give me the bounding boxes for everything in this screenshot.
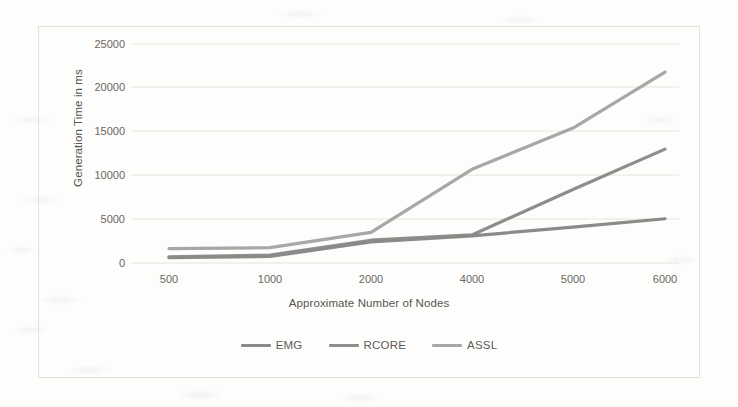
legend-swatch-icon <box>432 344 462 347</box>
x-tick-label: 500 <box>160 273 178 285</box>
chart-legend: EMG RCORE ASSL <box>39 339 699 351</box>
gridlines <box>131 44 679 263</box>
x-axis-title: Approximate Number of Nodes <box>39 297 699 309</box>
plot-area <box>39 27 701 379</box>
x-tick-label: 1000 <box>258 273 282 285</box>
x-tick-label: 5000 <box>561 273 585 285</box>
legend-label: EMG <box>276 339 303 351</box>
legend-swatch-icon <box>329 344 359 347</box>
legend-label: ASSL <box>467 339 497 351</box>
legend-item-emg[interactable]: EMG <box>241 339 303 351</box>
x-tick-label: 4000 <box>460 273 484 285</box>
legend-label: RCORE <box>364 339 407 351</box>
series-lines <box>169 72 665 258</box>
legend-item-rcore[interactable]: RCORE <box>329 339 407 351</box>
series-line-assl <box>169 72 665 249</box>
x-tick-label: 2000 <box>359 273 383 285</box>
chart-screenshot: Generation Time in ms 0 5000 10000 15000… <box>0 0 738 407</box>
x-tick-label: 6000 <box>653 273 677 285</box>
series-line-emg <box>169 219 665 258</box>
chart-frame: Generation Time in ms 0 5000 10000 15000… <box>38 26 700 378</box>
legend-item-assl[interactable]: ASSL <box>432 339 497 351</box>
legend-swatch-icon <box>241 344 271 347</box>
